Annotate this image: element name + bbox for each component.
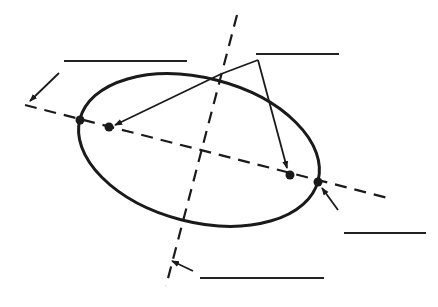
ellipse <box>62 49 336 250</box>
minor-axis-dashed <box>166 15 237 286</box>
focus-left-point <box>105 123 114 132</box>
arrow-vertex-right <box>322 188 338 210</box>
vertex-right-point <box>314 178 323 187</box>
arrow-major-axis-end <box>30 73 59 101</box>
label-blank-right <box>344 232 426 234</box>
vertex-left-point <box>76 116 85 125</box>
label-blank-bottom <box>200 277 324 279</box>
arrow-minor-axis <box>172 261 193 271</box>
label-blank-top-left <box>64 60 187 62</box>
ellipse-diagram <box>0 0 438 307</box>
label-blank-top-right <box>256 53 339 55</box>
focus-right-point <box>286 171 295 180</box>
